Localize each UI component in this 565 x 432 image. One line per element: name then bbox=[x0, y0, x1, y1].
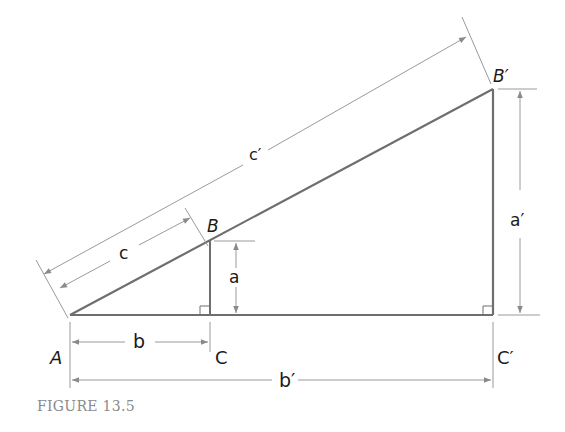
right-angle-marker-c-prime bbox=[483, 306, 493, 315]
figure-caption: FIGURE 13.5 bbox=[37, 398, 135, 414]
dimension-label-a-prime: a′ bbox=[510, 210, 524, 230]
large-triangle bbox=[70, 89, 493, 315]
dimension-label-b-prime: b′ bbox=[279, 369, 295, 391]
hypotenuse-ab-prime bbox=[70, 89, 493, 315]
vertex-label-a: A bbox=[49, 347, 62, 368]
dimension-label-c: c bbox=[119, 243, 128, 263]
vertex-label-c: C bbox=[215, 347, 228, 368]
dimension-label-a: a bbox=[229, 267, 239, 287]
vertex-label-b: B bbox=[207, 216, 219, 236]
extension-lines bbox=[36, 17, 540, 388]
dimension-label-b: b bbox=[133, 330, 145, 352]
vertex-label-b-prime: B′ bbox=[493, 66, 509, 86]
right-angle-marker-c bbox=[200, 306, 210, 315]
similar-triangles-diagram: A B C B′ C′ c c′ a a′ b b′ bbox=[0, 0, 565, 432]
vertex-label-c-prime: C′ bbox=[497, 347, 514, 368]
dimension-label-c-prime: c′ bbox=[249, 145, 262, 164]
